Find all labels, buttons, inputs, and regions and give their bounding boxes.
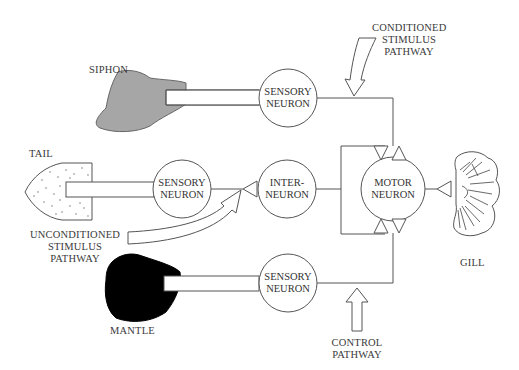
label-line: NEURON <box>259 98 317 110</box>
sensory-neuron-tail-label: SENSORY NEURON <box>153 177 211 201</box>
label-line: MOTOR <box>361 177 425 189</box>
axon-siphon-to-motor <box>317 98 393 146</box>
label-line: NEURON <box>259 283 317 295</box>
synapse-interneuron-motor-bottom <box>374 219 388 233</box>
mantle-label: MANTLE <box>110 325 155 337</box>
label-line: NEURON <box>258 189 316 201</box>
siphon-label: SIPHON <box>89 64 128 76</box>
label-line: PATHWAY <box>372 46 446 58</box>
control-pathway-arrow <box>346 288 368 331</box>
label-line: STIMULUS <box>30 241 120 253</box>
label-line: CONTROL <box>327 337 387 349</box>
unconditioned-pathway-label: UNCONDITIONED STIMULUS PATHWAY <box>30 229 120 265</box>
control-pathway-label: CONTROL PATHWAY <box>327 337 387 361</box>
label-line: SENSORY <box>259 86 317 98</box>
label-line: CONDITIONED <box>372 22 446 34</box>
mantle-tube <box>164 276 259 291</box>
label-line: NEURON <box>361 189 425 201</box>
axon-mantle-to-motor <box>317 233 393 283</box>
synapse-tail-interneuron <box>243 181 257 197</box>
label-line: PATHWAY <box>327 349 387 361</box>
synapse-siphon-motor <box>392 146 406 160</box>
sensory-neuron-mantle-label: SENSORY NEURON <box>259 271 317 295</box>
tail-tube <box>66 182 154 197</box>
label-line: PATHWAY <box>30 253 120 265</box>
tail-label: TAIL <box>29 148 53 160</box>
sensory-neuron-siphon-label: SENSORY NEURON <box>259 86 317 110</box>
motor-neuron-label: MOTOR NEURON <box>361 177 425 201</box>
label-line: UNCONDITIONED <box>30 229 120 241</box>
conditioned-pathway-label: CONDITIONED STIMULUS PATHWAY <box>372 22 446 58</box>
label-line: SENSORY <box>153 177 211 189</box>
synapse-mantle-motor <box>392 219 406 233</box>
gill-shape <box>454 152 500 236</box>
label-line: STIMULUS <box>372 34 446 46</box>
gill-label: GILL <box>460 257 485 269</box>
synapse-motor-gill <box>437 181 451 197</box>
label-line: INTER- <box>258 177 316 189</box>
label-line: SENSORY <box>259 271 317 283</box>
label-line: NEURON <box>153 189 211 201</box>
interneuron-label: INTER- NEURON <box>258 177 316 201</box>
